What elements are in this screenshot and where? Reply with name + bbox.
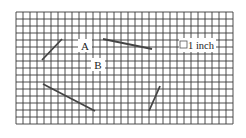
grid-diagram: A B 1 inch [0, 0, 246, 138]
polygon-segment [103, 39, 152, 49]
scale-label: 1 inch [188, 40, 215, 51]
polygon-segment [149, 86, 160, 111]
grid-lines [16, 12, 233, 124]
point-b-label: B [94, 59, 101, 71]
scale-square-icon [180, 41, 187, 48]
point-a-label: A [81, 40, 89, 52]
polygon-segment [42, 39, 62, 60]
